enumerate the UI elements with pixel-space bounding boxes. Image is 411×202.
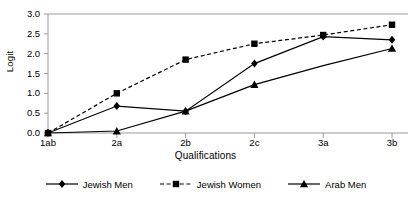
data-point-square-2a bbox=[114, 90, 120, 96]
data-point-diamond-2c bbox=[251, 60, 258, 68]
data-point-diamond-3b bbox=[389, 36, 396, 44]
data-point-square-2c bbox=[251, 41, 257, 47]
x-tick-label: 2c bbox=[234, 137, 274, 148]
x-tick-label: 3a bbox=[303, 137, 343, 148]
legend-swatch-diamond-icon bbox=[45, 178, 79, 190]
chart-legend: Jewish MenJewish WomenArab Men bbox=[0, 178, 411, 190]
line-chart-svg bbox=[0, 0, 411, 150]
legend-item-arab-men[interactable]: Arab Men bbox=[287, 178, 366, 190]
legend-swatch-triangle-icon bbox=[287, 178, 321, 190]
data-point-square-3a bbox=[320, 32, 326, 38]
data-point-diamond-2a bbox=[114, 102, 121, 110]
legend-label: Jewish Women bbox=[197, 179, 261, 190]
y-tick-label: 0.5 bbox=[16, 108, 40, 118]
legend-item-jewish-women[interactable]: Jewish Women bbox=[159, 178, 261, 190]
y-tick-label: 2.5 bbox=[16, 29, 40, 39]
x-tick-label: 2a bbox=[97, 137, 137, 148]
y-tick-label: 1.0 bbox=[16, 88, 40, 98]
x-tick-label: 3b bbox=[372, 137, 411, 148]
plot-area: Logit 0.00.51.01.52.02.53.01ab2a2b2c3a3b bbox=[0, 0, 411, 150]
y-tick-label: 3.0 bbox=[16, 9, 40, 19]
series-line-jewish-women bbox=[48, 25, 392, 133]
chart-figure: Logit 0.00.51.01.52.02.53.01ab2a2b2c3a3b… bbox=[0, 0, 411, 202]
x-tick-label: 1ab bbox=[28, 137, 68, 148]
series-line-jewish-men bbox=[48, 37, 392, 133]
data-point-triangle-3b bbox=[388, 44, 396, 51]
y-tick-label: 2.0 bbox=[16, 49, 40, 59]
legend-label: Arab Men bbox=[325, 179, 366, 190]
series-line-arab-men bbox=[48, 49, 392, 133]
x-axis-title: Qualifications bbox=[0, 150, 411, 161]
legend-marker-diamond-icon bbox=[58, 180, 65, 188]
x-tick-label: 2b bbox=[166, 137, 206, 148]
data-point-square-3b bbox=[389, 22, 395, 28]
legend-marker-square-icon bbox=[173, 181, 179, 187]
legend-swatch-square-icon bbox=[159, 178, 193, 190]
data-point-square-2b bbox=[182, 56, 188, 62]
y-tick-label: 1.5 bbox=[16, 69, 40, 79]
legend-label: Jewish Men bbox=[83, 179, 133, 190]
legend-item-jewish-men[interactable]: Jewish Men bbox=[45, 178, 133, 190]
